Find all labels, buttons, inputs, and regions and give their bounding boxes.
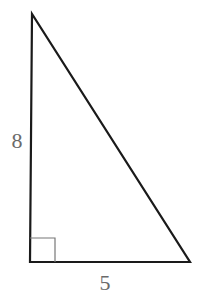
right-angle-marker xyxy=(30,238,55,262)
vertical-leg-label: 8 xyxy=(12,128,23,153)
triangle-diagram: 8 5 xyxy=(0,0,203,298)
right-triangle xyxy=(30,14,190,262)
horizontal-leg-label: 5 xyxy=(100,270,111,295)
